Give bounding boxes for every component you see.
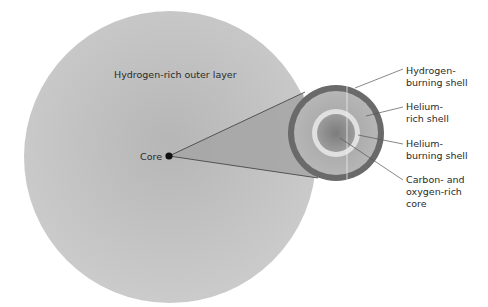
star-structure-diagram: Hydrogen-rich outer layer Core Hydrogen-… xyxy=(0,0,488,307)
core-dot xyxy=(165,152,172,159)
callout-hydrogen-burning-shell: Hydrogen- burning shell xyxy=(406,65,468,88)
core-inset xyxy=(288,85,384,181)
core-label: Core xyxy=(140,151,162,162)
callout-helium-burning-shell: Helium- burning shell xyxy=(406,138,468,161)
leader-hydrogen-burning-shell xyxy=(355,69,403,88)
callout-helium-rich-shell: Helium- rich shell xyxy=(406,101,449,124)
carbon-oxygen-core xyxy=(317,114,355,152)
callout-co-core: Carbon- and oxygen-rich core xyxy=(406,174,468,209)
outer-layer-label: Hydrogen-rich outer layer xyxy=(114,69,237,80)
